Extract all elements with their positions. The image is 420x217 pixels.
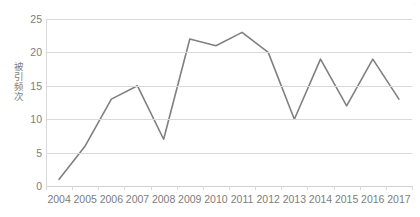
x-tick-mark <box>229 186 230 190</box>
clipped-title-strip: · <box>0 0 420 7</box>
x-tick-mark <box>124 186 125 190</box>
line-chart: · 被引频次 0510152025 2004200520062007200820… <box>0 0 420 217</box>
gridline-5 <box>46 153 412 154</box>
y-tick-label-20: 20 <box>16 47 42 57</box>
x-tick-label-2011: 2011 <box>231 193 254 206</box>
gridline-20 <box>46 52 412 53</box>
x-tick-label-2005: 2005 <box>74 193 97 206</box>
plot-area <box>46 19 412 186</box>
x-tick-label-2004: 2004 <box>47 193 70 206</box>
x-tick-mark <box>255 186 256 190</box>
y-tick-label-0: 0 <box>16 181 42 191</box>
x-axis-tick-labels: 2004200520062007200820092010201120122013… <box>46 193 412 211</box>
gridline-25 <box>46 19 412 20</box>
x-tick-mark <box>307 186 308 190</box>
y-axis-tick-labels: 0510152025 <box>12 19 42 186</box>
x-tick-label-2016: 2016 <box>361 193 384 206</box>
x-tick-mark <box>412 186 413 190</box>
x-tick-mark <box>334 186 335 190</box>
gridline-10 <box>46 119 412 120</box>
y-tick-label-25: 25 <box>16 14 42 24</box>
x-tick-label-2014: 2014 <box>309 193 332 206</box>
x-tick-label-2010: 2010 <box>204 193 227 206</box>
x-tick-mark <box>46 186 47 190</box>
x-tick-label-2017: 2017 <box>387 193 410 206</box>
y-tick-label-15: 15 <box>16 81 42 91</box>
x-tick-label-2013: 2013 <box>283 193 306 206</box>
x-tick-mark <box>98 186 99 190</box>
x-tick-mark <box>386 186 387 190</box>
x-tick-mark <box>203 186 204 190</box>
x-tick-label-2007: 2007 <box>126 193 149 206</box>
gridline-15 <box>46 86 412 87</box>
x-tick-label-2009: 2009 <box>178 193 201 206</box>
x-tick-mark <box>281 186 282 190</box>
x-tick-mark <box>177 186 178 190</box>
x-tick-mark <box>151 186 152 190</box>
x-tick-mark <box>360 186 361 190</box>
x-tick-label-2015: 2015 <box>335 193 358 206</box>
x-tick-label-2006: 2006 <box>100 193 123 206</box>
x-axis-tick-marks <box>46 186 412 190</box>
x-tick-label-2012: 2012 <box>257 193 280 206</box>
x-tick-label-2008: 2008 <box>152 193 175 206</box>
y-tick-label-5: 5 <box>16 148 42 158</box>
x-tick-mark <box>72 186 73 190</box>
y-tick-label-10: 10 <box>16 114 42 124</box>
series-line-citations <box>46 19 412 186</box>
